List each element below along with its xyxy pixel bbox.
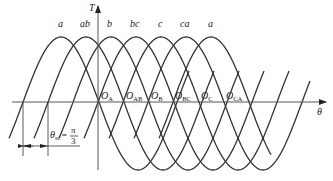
point-o-ca: OCA bbox=[226, 90, 243, 102]
torque-angle-diagram: T θ a ab b bc c ca a OA OAB OB OBC OC OC… bbox=[0, 0, 333, 181]
fraction-denominator: 3 bbox=[71, 136, 76, 146]
point-o-b: OB bbox=[151, 90, 163, 102]
curve-label-ca: ca bbox=[180, 18, 189, 29]
point-o-ab: OAB bbox=[126, 90, 143, 102]
step-angle-dimension: θsc= π 3 bbox=[23, 102, 80, 156]
curve-label-c: c bbox=[158, 18, 163, 29]
theta-axis-label: θ bbox=[317, 106, 322, 117]
curve-label-ab: ab bbox=[80, 18, 90, 29]
fraction-numerator: π bbox=[71, 125, 76, 135]
torque-curve-bc bbox=[84, 37, 264, 170]
torque-curve-b bbox=[59, 37, 239, 170]
point-o-bc: OBC bbox=[175, 90, 191, 102]
torque-curve-ab bbox=[34, 37, 214, 170]
curve-label-bc: bc bbox=[130, 18, 140, 29]
torque-curve-c bbox=[109, 37, 289, 170]
step-angle-label: θsc= bbox=[50, 129, 67, 141]
curve-labels: a ab b bc c ca a bbox=[58, 18, 213, 29]
curve-label-b: b bbox=[107, 18, 112, 29]
torque-curve-a bbox=[9, 37, 189, 170]
curve-label-a: a bbox=[58, 18, 63, 29]
point-o-c: OC bbox=[201, 90, 213, 102]
torque-curves bbox=[9, 37, 310, 170]
curve-label-a-repeat: a bbox=[208, 18, 213, 29]
point-o-a: OA bbox=[101, 90, 113, 102]
torque-curve-ca bbox=[134, 37, 310, 170]
torque-axis-label: T bbox=[89, 2, 96, 13]
